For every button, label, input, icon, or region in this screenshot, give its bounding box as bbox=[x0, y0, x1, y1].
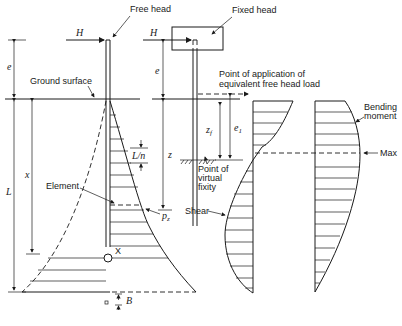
symbol-b: B bbox=[126, 295, 132, 306]
symbol-h-fixed: H bbox=[149, 27, 158, 38]
symbol-e1: e1 bbox=[234, 122, 242, 135]
label-ground-surface: Ground surface bbox=[30, 76, 92, 86]
reaction-envelope-left bbox=[22, 101, 106, 292]
reaction-hatching bbox=[30, 115, 168, 281]
symbol-e: e bbox=[7, 61, 12, 72]
label-point-of-application: Point of application of bbox=[219, 69, 306, 79]
reaction-curve-right bbox=[110, 101, 196, 292]
point-x-marker bbox=[104, 254, 112, 262]
symbol-h: H bbox=[75, 27, 84, 38]
pile-cap bbox=[172, 27, 223, 50]
svg-text:moment: moment bbox=[364, 111, 397, 121]
label-element: Element bbox=[46, 181, 80, 191]
symbol-l-over-n: L/n bbox=[131, 150, 145, 161]
label-fixed-head: Fixed head bbox=[232, 5, 277, 15]
symbol-e-fixed: e bbox=[155, 65, 160, 76]
symbol-pz: pz bbox=[161, 210, 170, 223]
svg-text:fixity: fixity bbox=[198, 182, 217, 192]
fixed-head-pile-diagram: H Fixed head e Point of application of e… bbox=[143, 5, 320, 226]
label-max: Max bbox=[380, 148, 398, 158]
bending-moment-diagram: Bending moment Max bbox=[255, 101, 398, 292]
svg-text:equivalent free head load: equivalent free head load bbox=[219, 79, 320, 89]
symbol-x: x bbox=[24, 169, 30, 180]
pile-diagram: H Free head e Ground surface L x bbox=[0, 0, 402, 326]
label-free-head: Free head bbox=[130, 4, 171, 14]
label-x: X bbox=[115, 246, 121, 256]
pile-section-square bbox=[105, 301, 108, 304]
symbol-zf: zf bbox=[205, 124, 213, 137]
symbol-z: z bbox=[167, 149, 172, 160]
symbol-l: L bbox=[5, 186, 12, 197]
label-shear: Shear bbox=[185, 206, 209, 216]
